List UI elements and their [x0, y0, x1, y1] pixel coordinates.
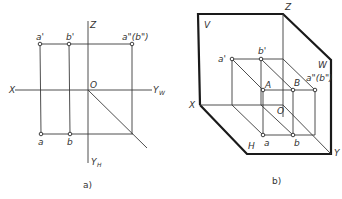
label-x: X — [8, 85, 16, 95]
label-a-dprime: a"(b") — [122, 32, 149, 42]
figure-b: V Z W X H Y O a' b' A B a"(b") a b b) — [188, 2, 341, 186]
point-b — [291, 133, 295, 137]
label-yh-sub: H — [97, 161, 102, 168]
point-b — [68, 132, 72, 136]
label-b: b — [67, 137, 73, 147]
label-b: b — [294, 138, 300, 148]
point-a-prime — [230, 57, 234, 61]
label-x: X — [188, 100, 196, 110]
point-a — [261, 133, 265, 137]
point-a — [39, 132, 43, 136]
label-b-prime: b' — [66, 32, 74, 42]
label-origin: O — [277, 106, 284, 116]
label-a-prime: a' — [218, 54, 226, 64]
point-a-dprime — [130, 42, 134, 46]
label-a: a — [38, 137, 44, 147]
y-axis-line — [283, 105, 331, 154]
label-y: Y — [334, 148, 341, 158]
a-vertical-line — [40, 44, 41, 134]
label-plane-v: V — [204, 20, 211, 30]
label-z: Z — [89, 20, 97, 30]
point-b-prime — [67, 42, 71, 46]
caption-a: a) — [83, 180, 92, 190]
point-a-dprime — [313, 88, 317, 92]
figure-a: X Z O Y W Y H a' b' a"(b") a b a) — [8, 20, 166, 190]
label-origin: O — [90, 80, 97, 90]
point-b-prime — [259, 57, 263, 61]
label-b-prime: b' — [258, 46, 266, 56]
label-plane-h: H — [248, 141, 255, 151]
label-B: B — [294, 78, 300, 88]
label-plane-w: W — [318, 60, 328, 70]
label-A: A — [264, 80, 271, 90]
point-a-prime — [38, 42, 42, 46]
miter-line — [88, 90, 147, 148]
label-a-prime: a' — [36, 32, 44, 42]
a-prime-to-A — [232, 59, 263, 90]
caption-b: b) — [272, 176, 281, 186]
b-vertical-line — [69, 44, 70, 134]
point-B — [291, 88, 295, 92]
x-a-diagonal — [232, 105, 263, 135]
label-a: a — [264, 138, 270, 148]
label-yw-sub: W — [159, 89, 166, 96]
label-z: Z — [284, 2, 292, 12]
label-a-dprime: a"(b") — [306, 73, 333, 83]
projection-diagram: X Z O Y W Y H a' b' a"(b") a b a) — [0, 0, 342, 199]
